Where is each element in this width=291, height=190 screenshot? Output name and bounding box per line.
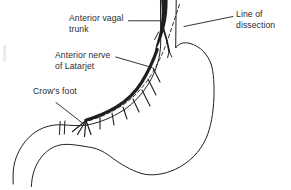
anatomy-figure: Anterior vagal trunk Anterior nerve of L… [0, 0, 291, 190]
scan-smudge [3, 45, 6, 62]
label-anterior-nerve-of-latarjet: Anterior nerve of Latarjet [55, 50, 110, 73]
leader-line-of-dissection [184, 17, 233, 27]
label-line-of-dissection: Line of dissection [236, 9, 275, 32]
label-line: Line of [236, 9, 275, 20]
label-line: Crow's foot [33, 86, 77, 97]
pylorus-marks [59, 121, 65, 135]
label-anterior-vagal-trunk: Anterior vagal trunk [69, 13, 123, 36]
leader-anterior-nerve-of-latarjet [116, 57, 152, 68]
label-line: Anterior vagal [69, 13, 123, 24]
label-line: of Latarjet [55, 61, 110, 72]
label-line: trunk [69, 24, 123, 35]
anterior-vagal-trunk-shape [155, 0, 168, 52]
leader-crows-foot [56, 103, 83, 124]
label-crows-foot: Crow's foot [33, 86, 77, 97]
label-line: Anterior nerve [55, 50, 110, 61]
label-line: dissection [236, 20, 275, 31]
